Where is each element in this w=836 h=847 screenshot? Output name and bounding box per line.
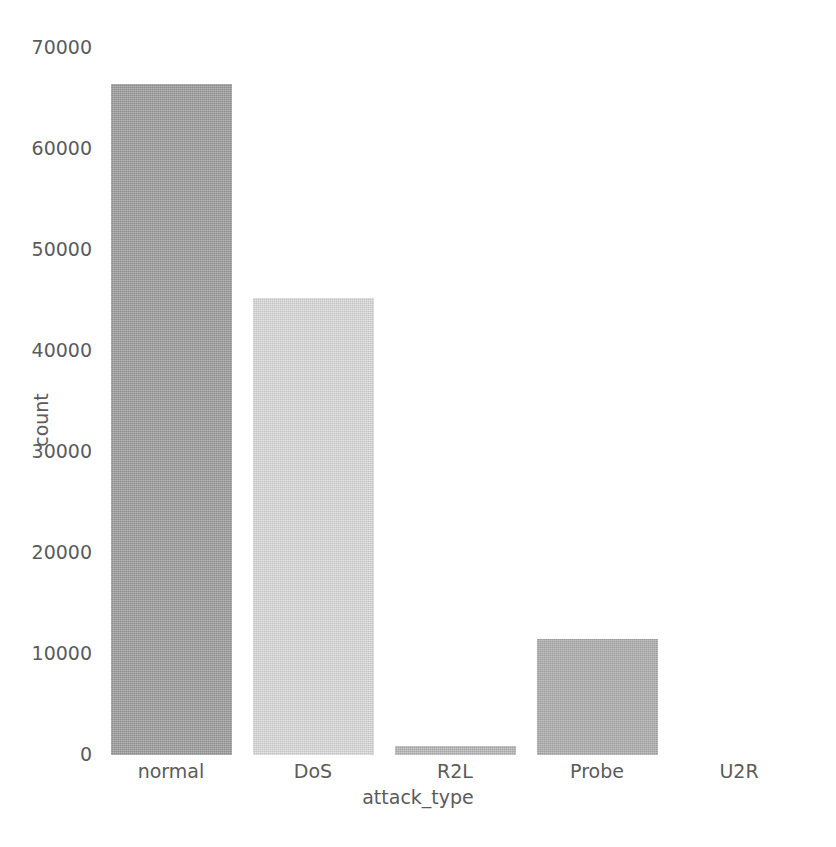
y-axis-title-wrap: count (28, 370, 54, 470)
y-axis-tick-0: 0 (80, 745, 92, 764)
y-axis-tick-50000: 50000 (32, 240, 92, 259)
bar-chart-figure: 70000 60000 50000 40000 30000 20000 1000… (0, 0, 836, 847)
y-axis-tick-60000: 60000 (32, 139, 92, 158)
y-axis-tick-70000: 70000 (32, 38, 92, 57)
x-axis-tick-r2l: R2L (384, 758, 526, 784)
bar-dos (253, 298, 374, 755)
bar-probe (537, 639, 658, 755)
x-axis-tick-dos: DoS (242, 758, 384, 784)
x-axis-tick-normal: normal (100, 758, 242, 784)
bar-r2l (395, 746, 516, 755)
y-axis-tick-40000: 40000 (32, 341, 92, 360)
x-axis-tick-probe: Probe (526, 758, 668, 784)
x-axis-tick-u2r: U2R (668, 758, 810, 784)
x-axis-title: attack_type (0, 786, 836, 808)
y-axis-tick-20000: 20000 (32, 543, 92, 562)
bar-normal (111, 84, 232, 755)
y-axis-title: count (30, 393, 52, 447)
y-axis-tick-10000: 10000 (32, 644, 92, 663)
plot-area (100, 48, 810, 755)
